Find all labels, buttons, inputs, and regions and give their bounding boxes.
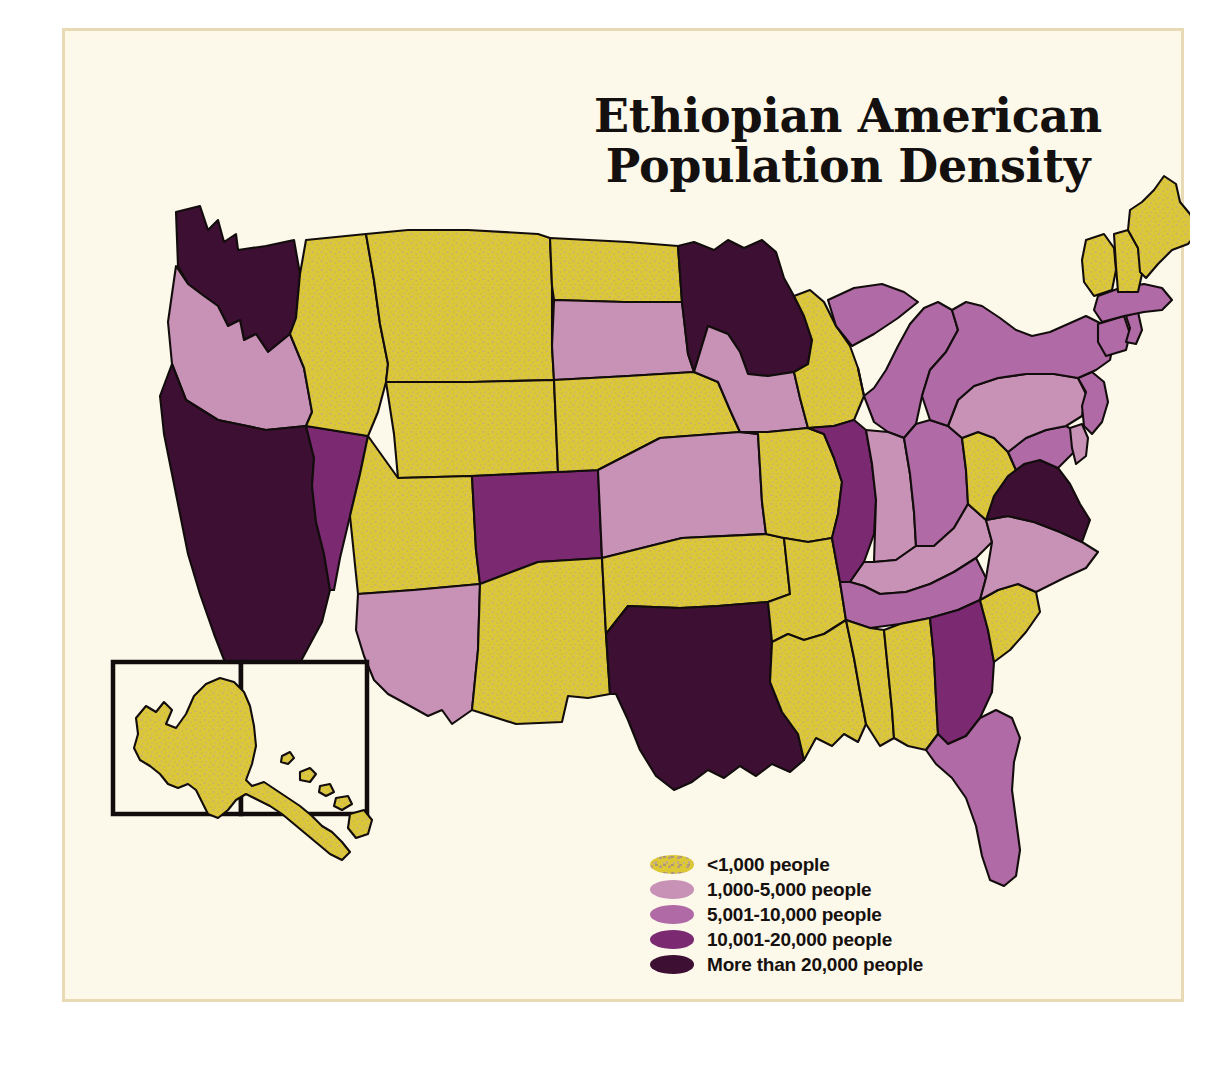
legend-label: 10,001-20,000 people xyxy=(707,929,892,951)
state-MT[interactable] xyxy=(366,230,554,382)
legend-item[interactable]: 10,001-20,000 people xyxy=(650,927,980,952)
map-svg xyxy=(68,34,1190,1008)
poster-panel: Ethiopian American Population Density xyxy=(62,28,1184,1002)
legend-swatch-icon xyxy=(650,955,694,974)
choropleth-map xyxy=(68,34,1190,1008)
legend-label: More than 20,000 people xyxy=(707,954,923,976)
state-VT[interactable] xyxy=(1082,234,1116,296)
legend-swatch-icon xyxy=(650,855,694,874)
state-DE[interactable] xyxy=(1070,424,1088,464)
legend-item[interactable]: <1,000 people xyxy=(650,852,980,877)
legend-item[interactable]: 1,000-5,000 people xyxy=(650,877,980,902)
legend-label: 1,000-5,000 people xyxy=(707,879,871,901)
state-ND[interactable] xyxy=(550,238,682,302)
state-WY[interactable] xyxy=(386,380,558,478)
legend-item[interactable]: More than 20,000 people xyxy=(650,952,980,977)
legend-swatch-icon xyxy=(650,880,694,899)
state-SD[interactable] xyxy=(552,300,694,380)
poster-page: Ethiopian American Population Density xyxy=(0,0,1223,1066)
legend-label: 5,001-10,000 people xyxy=(707,904,882,926)
legend-swatch-icon xyxy=(650,905,694,924)
legend-item[interactable]: 5,001-10,000 people xyxy=(650,902,980,927)
legend-label: <1,000 people xyxy=(707,854,830,876)
poster-inner-panel: Ethiopian American Population Density xyxy=(68,34,1178,996)
legend-swatch-icon xyxy=(650,930,694,949)
legend: <1,000 people 1,000-5,000 people 5,001-1… xyxy=(650,852,980,977)
state-AZ[interactable] xyxy=(356,584,480,724)
state-NM[interactable] xyxy=(472,558,610,724)
